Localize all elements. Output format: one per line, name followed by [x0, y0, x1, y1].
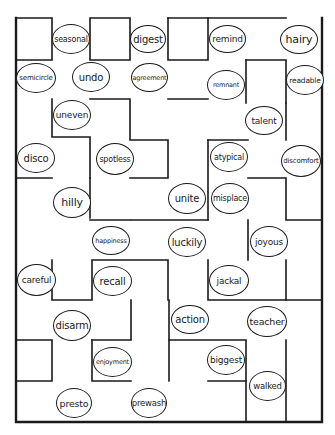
word-oval-remind[interactable]: remind: [209, 25, 246, 53]
word-label: luckily: [172, 237, 202, 248]
word-label: unite: [175, 193, 200, 204]
maze-walls: [0, 0, 335, 435]
word-label: joyous: [255, 237, 283, 247]
word-label: teacher: [250, 316, 285, 327]
word-label: discomfort: [283, 157, 318, 165]
word-oval-prewash[interactable]: prewash: [131, 388, 167, 418]
word-label: action: [175, 314, 205, 325]
word-oval-semicircle[interactable]: semicircle: [16, 63, 56, 93]
word-oval-seasonal[interactable]: seasonal: [52, 24, 90, 54]
word-label: agreement: [133, 74, 167, 82]
word-label: uneven: [56, 110, 88, 120]
word-oval-careful[interactable]: careful: [17, 264, 56, 296]
word-oval-disco[interactable]: disco: [17, 143, 55, 173]
word-label: prewash: [132, 398, 167, 408]
word-label: careful: [22, 275, 51, 285]
word-label: happiness: [95, 237, 126, 245]
word-label: enjoyment: [96, 358, 129, 366]
word-label: disarm: [56, 320, 89, 331]
word-oval-enjoyment[interactable]: enjoyment: [93, 347, 132, 377]
word-label: remnant: [213, 81, 239, 89]
word-label: hilly: [61, 196, 83, 209]
word-label: disco: [24, 153, 49, 164]
word-label: hairy: [286, 33, 313, 46]
word-oval-atypical[interactable]: atypical: [210, 142, 248, 172]
word-label: talent: [251, 116, 276, 126]
word-oval-happiness[interactable]: happiness: [92, 226, 130, 255]
word-oval-biggest[interactable]: biggest: [207, 345, 245, 375]
word-oval-recall[interactable]: recall: [93, 266, 132, 296]
word-oval-uneven[interactable]: uneven: [53, 100, 91, 130]
word-label: jackal: [217, 276, 242, 286]
word-oval-misplace[interactable]: misplace: [211, 183, 249, 214]
word-label: semicircle: [19, 74, 52, 82]
word-label: spotless: [99, 155, 130, 164]
word-oval-hairy[interactable]: hairy: [280, 25, 318, 54]
word-oval-discomfort[interactable]: discomfort: [281, 145, 321, 177]
word-label: undo: [79, 72, 103, 83]
word-oval-digest[interactable]: digest: [130, 25, 166, 53]
word-oval-jackal[interactable]: jackal: [209, 265, 249, 296]
word-oval-walked[interactable]: walked: [249, 371, 286, 401]
word-oval-action[interactable]: action: [171, 305, 209, 334]
word-oval-talent[interactable]: talent: [245, 106, 283, 135]
word-oval-disarm[interactable]: disarm: [53, 310, 91, 341]
word-oval-unite[interactable]: unite: [168, 183, 206, 214]
word-oval-spotless[interactable]: spotless: [96, 143, 134, 175]
word-label: remind: [212, 34, 243, 44]
word-oval-luckily[interactable]: luckily: [168, 227, 206, 257]
word-label: recall: [99, 276, 125, 287]
word-label: misplace: [213, 194, 247, 203]
word-label: seasonal: [54, 35, 88, 44]
word-oval-agreement[interactable]: agreement: [131, 63, 168, 92]
word-label: presto: [60, 398, 89, 409]
word-oval-hilly[interactable]: hilly: [53, 187, 91, 218]
word-oval-undo[interactable]: undo: [72, 62, 110, 92]
word-label: biggest: [210, 355, 242, 365]
word-label: walked: [253, 381, 282, 391]
word-label: readable: [289, 76, 320, 85]
word-oval-teacher[interactable]: teacher: [247, 306, 287, 337]
word-oval-presto[interactable]: presto: [56, 388, 92, 418]
word-label: atypical: [214, 153, 244, 162]
word-oval-joyous[interactable]: joyous: [250, 226, 288, 257]
word-oval-readable[interactable]: readable: [286, 65, 324, 95]
word-oval-remnant[interactable]: remnant: [207, 70, 245, 100]
word-label: digest: [133, 34, 163, 45]
